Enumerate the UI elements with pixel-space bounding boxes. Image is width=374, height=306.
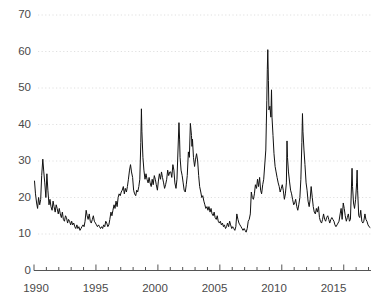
data-line-series-0: [35, 50, 371, 233]
volatility-line-chart: 70 60 50 40 30 20 10 0 1990 1995 2000 20…: [0, 0, 374, 306]
x-axis: [34, 265, 371, 271]
plot-area: [0, 0, 374, 306]
gridlines: [38, 15, 371, 234]
